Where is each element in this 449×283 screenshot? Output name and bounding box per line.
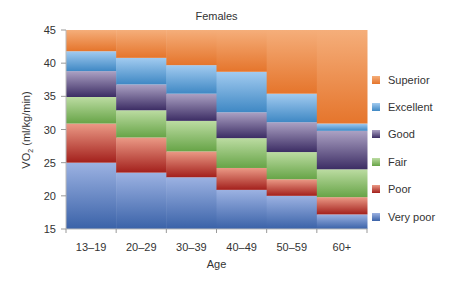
bar-segment-excellent — [66, 51, 117, 71]
legend-item-superior: Superior — [372, 73, 430, 87]
y-tick-label: 35 — [44, 90, 56, 102]
legend-swatch — [372, 213, 380, 221]
bar-segment-good — [267, 122, 318, 152]
bar-segment-good — [317, 131, 368, 169]
legend-item-poor: Poor — [372, 182, 411, 196]
legend-label: Fair — [388, 156, 407, 168]
bar-segment-good — [66, 71, 117, 97]
legend-swatch — [372, 185, 380, 193]
bar-segment-good — [217, 112, 268, 138]
bar-segment-very-poor — [116, 173, 167, 229]
bar-segment-very-poor — [66, 163, 117, 229]
y-tick-label: 25 — [44, 157, 56, 169]
x-axis-label: Age — [66, 258, 367, 270]
y-tick-label: 30 — [44, 124, 56, 136]
x-tick-label: 60+ — [333, 241, 352, 253]
bar-segment-very-poor — [267, 196, 318, 229]
bar-segment-superior — [267, 30, 318, 94]
legend-item-good: Good — [372, 127, 415, 141]
bar-segment-excellent — [166, 65, 217, 94]
bar-segment-superior — [116, 30, 167, 58]
legend-swatch — [372, 158, 380, 166]
x-tick-label: 30–39 — [176, 241, 207, 253]
plot-area: 1520253035404513–1920–2930–3940–4950–596… — [0, 0, 449, 283]
chart: Females 1520253035404513–1920–2930–3940–… — [0, 0, 449, 283]
y-tick-label: 40 — [44, 57, 56, 69]
bar-segment-superior — [217, 30, 268, 72]
bar-segment-excellent — [217, 72, 268, 112]
legend-item-excellent: Excellent — [372, 100, 433, 114]
bar-segment-poor — [217, 168, 268, 190]
y-tick-label: 45 — [44, 24, 56, 36]
y-tick-label: 20 — [44, 190, 56, 202]
bar-segment-good — [116, 84, 167, 110]
x-tick-label: 40–49 — [226, 241, 257, 253]
bar-segment-poor — [166, 151, 217, 177]
bar-segment-poor — [267, 179, 318, 196]
legend-label: Poor — [388, 183, 411, 195]
legend-label: Excellent — [388, 101, 433, 113]
legend-swatch — [372, 76, 380, 84]
bar-segment-poor — [317, 197, 368, 214]
bar-segment-fair — [317, 169, 368, 197]
bar-segment-superior — [166, 30, 217, 65]
bar-segment-poor — [66, 124, 117, 163]
legend-item-very-poor: Very poor — [372, 210, 435, 224]
bar-segment-excellent — [267, 94, 318, 123]
legend-label: Superior — [388, 74, 430, 86]
bar-segment-fair — [166, 121, 217, 152]
legend-label: Very poor — [388, 211, 435, 223]
bar-segment-good — [166, 94, 217, 121]
legend-swatch — [372, 103, 380, 111]
bar-segment-fair — [116, 110, 167, 137]
bar-segment-poor — [116, 137, 167, 172]
bar-segment-superior — [317, 30, 368, 124]
bar-segment-fair — [217, 138, 268, 168]
bar-segment-superior — [66, 30, 117, 51]
x-tick-label: 20–29 — [126, 241, 157, 253]
x-tick-label: 50–59 — [276, 241, 307, 253]
bar-segment-very-poor — [166, 177, 217, 229]
bars — [66, 30, 368, 229]
legend-swatch — [372, 130, 380, 138]
bar-segment-excellent — [116, 58, 167, 85]
legend-item-fair: Fair — [372, 155, 407, 169]
bar-segment-excellent — [317, 124, 368, 131]
bar-segment-very-poor — [317, 214, 368, 229]
x-tick-label: 13–19 — [76, 241, 107, 253]
legend-label: Good — [388, 128, 415, 140]
bar-segment-fair — [66, 97, 117, 124]
y-tick-label: 15 — [44, 223, 56, 235]
y-axis-label: VO2 (ml/kg/min) — [20, 91, 34, 168]
bar-segment-fair — [267, 152, 318, 179]
bar-segment-very-poor — [217, 190, 268, 229]
